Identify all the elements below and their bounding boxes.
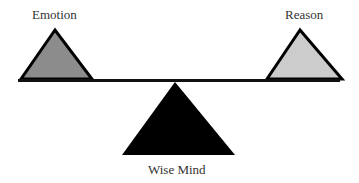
balance-diagram [0, 0, 359, 183]
balance-beam [18, 79, 340, 82]
wise-mind-fulcrum [122, 82, 235, 155]
reason-triangle [267, 30, 342, 79]
emotion-label: Emotion [32, 7, 77, 23]
wise-mind-label: Wise Mind [148, 162, 206, 178]
emotion-triangle [21, 30, 92, 79]
reason-label: Reason [285, 7, 323, 23]
